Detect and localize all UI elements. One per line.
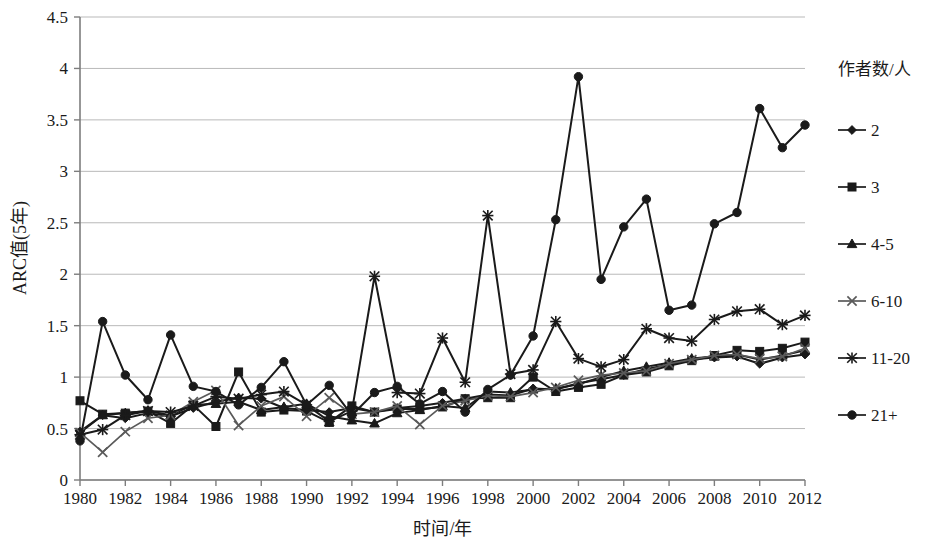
y-tick-label: 4.5 bbox=[47, 8, 68, 27]
data-point-21+ bbox=[529, 332, 537, 340]
legend-label-6-10: 6-10 bbox=[871, 292, 902, 311]
legend-item-2[interactable]: 2 bbox=[838, 121, 880, 140]
x-axis-tick-labels: 1980198219841986198819901992199419961998… bbox=[63, 489, 822, 508]
data-point-6-10 bbox=[325, 393, 334, 402]
legend: 作者数/人234-56-1011-2021+ bbox=[838, 60, 911, 425]
x-tick-label: 1982 bbox=[108, 489, 142, 508]
data-point-21+ bbox=[234, 401, 242, 409]
data-point-11-20 bbox=[573, 353, 584, 364]
x-tick-label: 2006 bbox=[652, 489, 686, 508]
data-point-21+ bbox=[438, 387, 446, 395]
y-axis-tick-labels: 00.511.522.533.544.5 bbox=[47, 8, 69, 490]
data-point-11-20 bbox=[278, 386, 289, 397]
y-tick-label: 0 bbox=[60, 471, 69, 490]
x-tick-label: 1998 bbox=[471, 489, 505, 508]
data-point-3 bbox=[597, 380, 605, 388]
data-point-21+ bbox=[801, 121, 809, 129]
data-point-21+ bbox=[642, 195, 650, 203]
data-point-21+ bbox=[688, 301, 696, 309]
data-point-11-20 bbox=[550, 316, 561, 327]
legend-label-11-20: 11-20 bbox=[871, 349, 910, 368]
data-point-21+ bbox=[98, 317, 106, 325]
data-point-21+ bbox=[189, 382, 197, 390]
y-tick-label: 2 bbox=[60, 265, 69, 284]
data-point-11-20 bbox=[324, 416, 335, 427]
legend-item-4-5[interactable]: 4-5 bbox=[838, 235, 894, 254]
data-point-21+ bbox=[461, 408, 469, 416]
x-tick-label: 1994 bbox=[380, 489, 415, 508]
data-point-21+ bbox=[76, 437, 84, 445]
data-point-21+ bbox=[257, 383, 265, 391]
data-point-11-20 bbox=[777, 319, 788, 330]
data-point-21+ bbox=[733, 208, 741, 216]
data-point-6-10 bbox=[98, 448, 107, 457]
y-axis-title: ARC值(5年) bbox=[10, 201, 31, 295]
legend-label-2: 2 bbox=[871, 121, 880, 140]
data-point-11-20 bbox=[799, 310, 810, 321]
data-point-11-20 bbox=[663, 332, 674, 343]
y-tick-label: 1.5 bbox=[47, 317, 68, 336]
data-point-11-20 bbox=[754, 304, 765, 315]
data-point-21+ bbox=[144, 396, 152, 404]
legend-item-6-10[interactable]: 6-10 bbox=[838, 292, 902, 311]
data-point-11-20 bbox=[460, 377, 471, 388]
data-point-21+ bbox=[778, 143, 786, 151]
data-point-11-20 bbox=[369, 271, 380, 282]
data-point-11-20 bbox=[120, 410, 131, 421]
data-point-21+ bbox=[280, 357, 288, 365]
x-tick-label: 1996 bbox=[426, 489, 460, 508]
data-point-11-20 bbox=[528, 364, 539, 375]
x-tick-label: 2008 bbox=[697, 489, 731, 508]
x-tick-label: 2004 bbox=[607, 489, 642, 508]
data-point-21+ bbox=[552, 215, 560, 223]
legend-marker-diamond bbox=[848, 126, 857, 135]
x-tick-label: 1986 bbox=[199, 489, 233, 508]
data-point-6-10 bbox=[415, 420, 424, 429]
data-point-21+ bbox=[484, 385, 492, 393]
data-point-21+ bbox=[574, 72, 582, 80]
data-point-11-20 bbox=[165, 406, 176, 417]
data-point-21+ bbox=[325, 381, 333, 389]
y-tick-label: 4 bbox=[60, 59, 69, 78]
data-point-11-20 bbox=[482, 210, 493, 221]
data-point-11-20 bbox=[709, 314, 720, 325]
legend-title: 作者数/人 bbox=[838, 60, 911, 79]
x-tick-label: 1984 bbox=[154, 489, 189, 508]
x-tick-label: 2000 bbox=[516, 489, 550, 508]
data-point-21+ bbox=[620, 223, 628, 231]
x-axis-ticks bbox=[80, 480, 805, 486]
y-tick-label: 2.5 bbox=[47, 214, 68, 233]
legend-label-4-5: 4-5 bbox=[871, 235, 894, 254]
x-tick-label: 1988 bbox=[244, 489, 278, 508]
data-point-21+ bbox=[755, 104, 763, 112]
data-point-21+ bbox=[121, 371, 129, 379]
legend-item-21+[interactable]: 21+ bbox=[838, 406, 898, 425]
data-point-21+ bbox=[348, 411, 356, 419]
data-point-11-20 bbox=[641, 323, 652, 334]
series-21+ bbox=[76, 72, 809, 445]
data-point-11-20 bbox=[437, 332, 448, 343]
data-point-21+ bbox=[370, 388, 378, 396]
data-point-11-20 bbox=[188, 400, 199, 411]
line-chart: 00.511.522.533.544.5 1980198219841986198… bbox=[0, 0, 926, 544]
legend-label-21+: 21+ bbox=[871, 406, 898, 425]
x-tick-label: 2002 bbox=[561, 489, 595, 508]
x-tick-label: 2012 bbox=[788, 489, 822, 508]
y-tick-label: 0.5 bbox=[47, 420, 68, 439]
data-point-11-20 bbox=[142, 405, 153, 416]
legend-marker-asterisk bbox=[846, 352, 857, 363]
data-point-3 bbox=[76, 397, 84, 405]
y-tick-label: 1 bbox=[60, 368, 69, 387]
legend-item-3[interactable]: 3 bbox=[838, 178, 880, 197]
data-point-11-20 bbox=[97, 424, 108, 435]
x-tick-label: 1992 bbox=[335, 489, 369, 508]
data-point-11-20 bbox=[595, 361, 606, 372]
y-tick-label: 3 bbox=[60, 162, 69, 181]
x-tick-label: 1980 bbox=[63, 489, 97, 508]
data-point-21+ bbox=[665, 306, 673, 314]
legend-marker-square bbox=[848, 183, 856, 191]
legend-item-11-20[interactable]: 11-20 bbox=[838, 349, 910, 368]
data-point-21+ bbox=[166, 331, 174, 339]
data-series bbox=[74, 72, 810, 456]
data-point-21+ bbox=[302, 401, 310, 409]
